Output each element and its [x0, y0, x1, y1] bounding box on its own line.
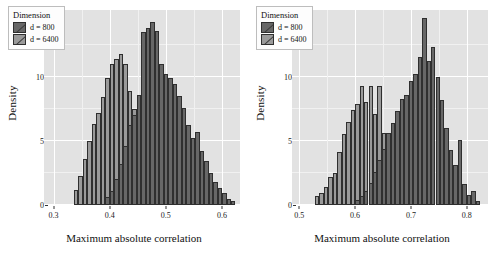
legend-item-d-6400[interactable]: d = 6400 — [13, 34, 59, 45]
legend-swatch-icon-d-800 — [13, 22, 26, 33]
legend-swatch-icon-d-800 — [261, 22, 274, 33]
y-tick-label: 5 — [18, 136, 44, 145]
panel-left: Density 0510 0.30.40.50.6 Maximum absolu… — [0, 0, 248, 270]
plot-area-left — [44, 10, 240, 205]
plot-area-right — [292, 10, 488, 205]
y-tick-label: 10 — [266, 72, 292, 81]
legend-label-d-6400: d = 6400 — [278, 35, 307, 44]
legend-right: Dimension d = 800 d = 6400 — [256, 6, 313, 50]
gridline-vertical — [222, 10, 223, 205]
legend-item-d-800[interactable]: d = 800 — [13, 22, 59, 33]
y-tick-label: 5 — [266, 136, 292, 145]
y-tick-label: 0 — [266, 201, 292, 210]
gridline-horizontal — [292, 76, 488, 77]
x-tick-label: 0.6 — [217, 211, 227, 220]
x-tick-labels-left: 0.30.40.50.6 — [44, 205, 240, 227]
x-tick-label: 0.5 — [294, 211, 304, 220]
gridline-vertical-minor — [327, 10, 328, 205]
legend-label-d-800: d = 800 — [278, 23, 303, 32]
gridline-vertical — [467, 10, 468, 205]
legend-label-d-800: d = 800 — [30, 23, 55, 32]
legend-title: Dimension — [261, 10, 307, 20]
x-tick-labels-right: 0.50.60.70.8 — [292, 205, 488, 227]
x-axis-label-right: Maximum absolute correlation — [272, 232, 492, 244]
legend-item-d-800[interactable]: d = 800 — [261, 22, 307, 33]
legend-item-d-6400[interactable]: d = 6400 — [261, 34, 307, 45]
x-tick-label: 0.8 — [462, 211, 472, 220]
legend-swatch-icon-d-6400 — [261, 34, 274, 45]
x-tick-label: 0.4 — [105, 211, 115, 220]
gridline-horizontal-minor — [292, 108, 488, 109]
x-axis-label-left: Maximum absolute correlation — [24, 232, 244, 244]
legend-label-d-6400: d = 6400 — [30, 35, 59, 44]
x-tick-label: 0.3 — [49, 211, 59, 220]
legend-title: Dimension — [13, 10, 59, 20]
x-tick-label: 0.7 — [406, 211, 416, 220]
gridline-horizontal-minor — [292, 44, 488, 45]
legend-swatch-icon-d-6400 — [13, 34, 26, 45]
figure-histogram-pair: Density 0510 0.30.40.50.6 Maximum absolu… — [0, 0, 497, 270]
legend-left: Dimension d = 800 d = 6400 — [8, 6, 65, 50]
y-tick-label: 0 — [18, 201, 44, 210]
x-tick-label: 0.6 — [350, 211, 360, 220]
y-tick-label: 10 — [18, 72, 44, 81]
x-tick-label: 0.5 — [161, 211, 171, 220]
panel-right: Density 0510 0.50.60.70.8 Maximum absolu… — [248, 0, 496, 270]
